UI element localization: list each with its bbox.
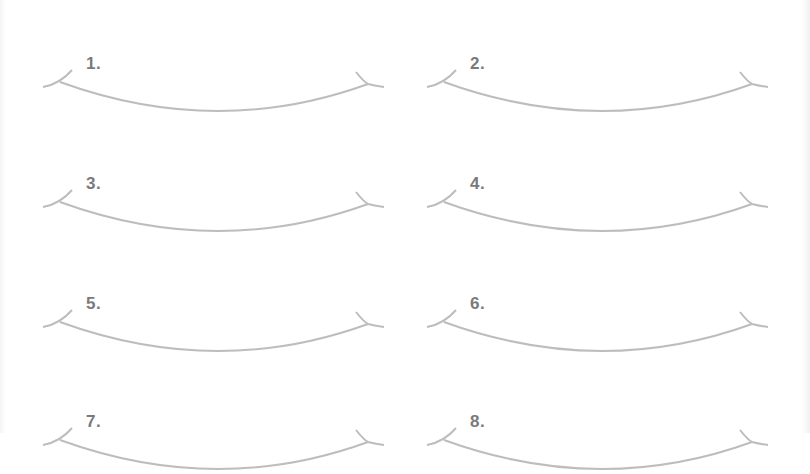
item-number: 3. bbox=[86, 174, 101, 194]
item-number: 4. bbox=[470, 174, 485, 194]
answer-line-6[interactable]: 6. bbox=[426, 284, 771, 354]
item-number: 7. bbox=[86, 412, 101, 432]
answer-line-7[interactable]: 7. bbox=[42, 402, 387, 472]
answer-line-5[interactable]: 5. bbox=[42, 284, 387, 354]
answer-line-1[interactable]: 1. bbox=[42, 44, 387, 114]
item-number: 6. bbox=[470, 294, 485, 314]
item-number: 8. bbox=[470, 412, 485, 432]
answer-line-2[interactable]: 2. bbox=[426, 44, 771, 114]
item-number: 1. bbox=[86, 54, 101, 74]
answer-line-3[interactable]: 3. bbox=[42, 164, 387, 234]
answer-line-4[interactable]: 4. bbox=[426, 164, 771, 234]
page-left-edge bbox=[0, 0, 6, 433]
answer-line-8[interactable]: 8. bbox=[426, 402, 771, 472]
item-number: 2. bbox=[470, 54, 485, 74]
page-right-edge bbox=[802, 0, 810, 433]
item-number: 5. bbox=[86, 294, 101, 314]
